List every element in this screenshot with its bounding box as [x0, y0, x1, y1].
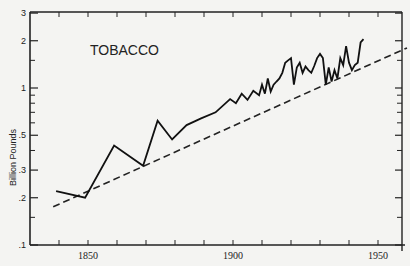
y-tick-label: 1	[21, 83, 26, 93]
y-tick-label: .1	[18, 240, 26, 250]
x-tick-label: 1850	[78, 250, 98, 261]
tobacco-chart: .1.2.3.5123 185019001950 TOBACCO Billion…	[0, 0, 410, 266]
x-tick-label: 1900	[223, 250, 243, 261]
y-tick-label: .5	[18, 130, 26, 140]
plot-frame	[30, 12, 405, 251]
chart-title: TOBACCO	[90, 42, 159, 58]
data-line	[56, 39, 363, 198]
y-tick-label: .3	[18, 165, 26, 175]
y-axis-label: Billion Pounds	[8, 128, 18, 186]
y-tick-label: 2	[21, 36, 26, 46]
y-tick-label: .2	[18, 193, 26, 203]
y-axis-ticks: .1.2.3.5123	[18, 8, 402, 250]
y-tick-label: 3	[21, 8, 26, 18]
trend-line	[53, 48, 407, 207]
x-tick-label: 1950	[368, 250, 388, 261]
